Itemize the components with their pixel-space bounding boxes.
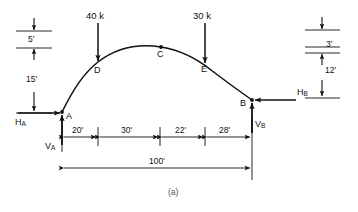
- dim-15ft-label: 15': [26, 75, 37, 84]
- dim-30ft-label: 30': [121, 126, 132, 135]
- node-D-label: D: [94, 66, 101, 75]
- figure-caption: (a): [168, 188, 178, 197]
- dim-20ft-label: 20': [72, 126, 83, 135]
- reaction-HB-label: HB: [297, 88, 308, 98]
- node-A-label: A: [66, 112, 72, 121]
- dim-12ft-label: 12': [325, 66, 336, 75]
- load-40k-label: 40 k: [86, 11, 104, 21]
- dim-28ft-label: 28': [219, 126, 230, 135]
- reaction-HA-label: HA: [15, 118, 26, 128]
- reaction-HB-subscript: B: [304, 90, 308, 97]
- reaction-VA-subscript: A: [51, 144, 55, 151]
- dim-3ft-label: 3': [326, 40, 332, 49]
- left-dimension-stack: [16, 18, 52, 113]
- reaction-VA-label: VA: [45, 142, 55, 152]
- node-B-label: B: [240, 99, 246, 108]
- dim-5ft-label: 5': [28, 35, 34, 44]
- diagram-vector-layer: [0, 0, 358, 212]
- node-E-label: E: [201, 65, 207, 74]
- node-A-dot: [60, 110, 64, 114]
- figure-canvas: 40 k 30 k A D C E B HA VA HB VB 5' 15' 3…: [0, 0, 358, 212]
- node-B-dot: [250, 98, 254, 102]
- reaction-VB-label: VB: [255, 120, 265, 130]
- reaction-VB-subscript: B: [261, 122, 265, 129]
- reaction-HA-subscript: A: [22, 120, 26, 127]
- node-C-label: C: [157, 50, 164, 59]
- dim-100ft-label: 100': [146, 157, 168, 166]
- right-dimension-stack: [305, 17, 340, 98]
- load-30k-label: 30 k: [193, 11, 211, 21]
- dim-22ft-label: 22': [175, 126, 186, 135]
